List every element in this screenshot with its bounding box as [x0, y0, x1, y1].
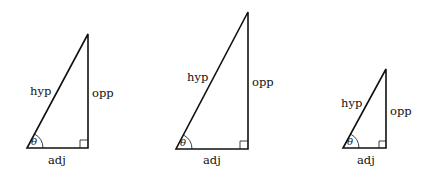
triangle-3: θ hyp opp adj [341, 69, 412, 167]
hyp-label: hyp [187, 70, 208, 84]
theta-label: θ [347, 136, 353, 147]
adj-label: adj [203, 153, 221, 167]
theta-label: θ [180, 137, 186, 148]
adj-label: adj [357, 153, 375, 167]
hyp-label: hyp [30, 84, 51, 98]
opp-label: opp [92, 86, 114, 100]
hyp-label: hyp [341, 96, 362, 110]
triangle-2: θ hyp opp adj [176, 12, 274, 167]
right-angle-marker [379, 141, 386, 148]
right-angle-marker [80, 140, 88, 148]
triangles-diagram: θ hyp opp adj θ hyp opp adj θ hyp opp ad… [0, 0, 434, 182]
right-angle-marker [240, 141, 248, 149]
triangle-1: θ hyp opp adj [27, 34, 114, 167]
opp-label: opp [252, 75, 274, 89]
opp-label: opp [390, 104, 412, 118]
theta-label: θ [31, 136, 37, 147]
adj-label: adj [48, 153, 66, 167]
